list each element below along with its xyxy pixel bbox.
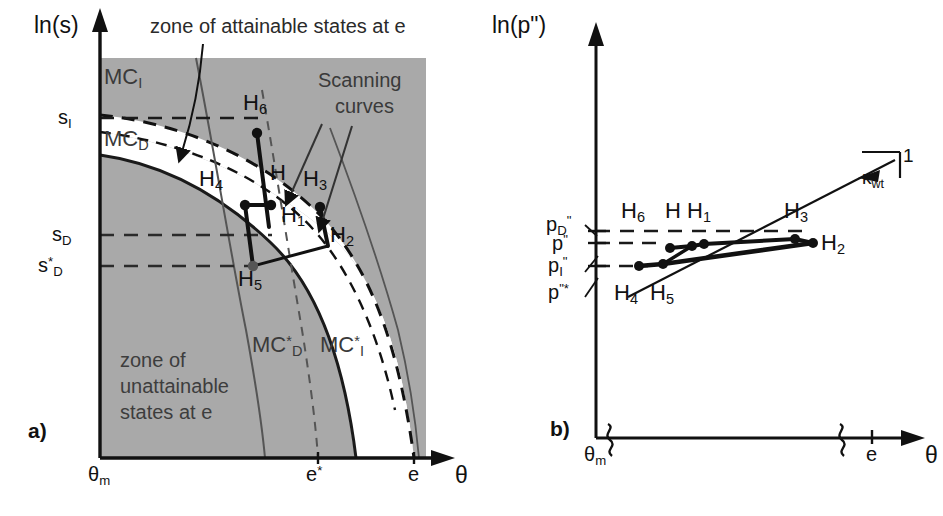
annotation-zone-unattainable-line2: unattainable xyxy=(120,376,229,396)
kappa-wt-line xyxy=(628,160,895,297)
panel-b-ytick-pi: pI" xyxy=(548,255,567,278)
annotation-zone-unattainable-line1: zone of xyxy=(120,350,186,370)
curve-label-mc-star-d: MC*D xyxy=(252,334,302,359)
point-h4-b xyxy=(634,261,644,271)
point-h5-b xyxy=(658,259,668,269)
point-h1-b xyxy=(699,239,709,249)
point-label-h5-a: H5 xyxy=(238,268,262,293)
point-h4-a xyxy=(240,200,250,210)
panel-a-ytick-s-star-d: s*D xyxy=(38,255,63,278)
point-label-h5-b: H5 xyxy=(650,282,674,307)
panel-a-xtick-e-star: e* xyxy=(306,464,322,484)
slope-kappa-wt-label: κwt xyxy=(862,168,884,190)
panel-a-xtick-e: e xyxy=(408,464,419,484)
point-label-h-a: H xyxy=(270,162,286,184)
point-h2-b xyxy=(808,238,818,248)
point-label-h6-b: H6 xyxy=(621,200,645,225)
state-points-b xyxy=(634,234,818,271)
point-label-h4-b: H4 xyxy=(614,282,638,307)
point-label-h4-a: H4 xyxy=(199,168,223,193)
annotation-scanning-curves-line2: curves xyxy=(335,96,394,116)
annotation-zone-attainable: zone of attainable states at e xyxy=(150,16,406,36)
panel-a-ytick-s-d: sD xyxy=(52,224,72,247)
curve-label-mc-d: MCD xyxy=(104,128,149,153)
point-label-h3-a: H3 xyxy=(303,168,327,193)
point-label-h2-b: H2 xyxy=(821,232,845,257)
point-label-h1-a: H1 xyxy=(281,204,305,229)
annotation-zone-unattainable-line3: states at e xyxy=(120,402,212,422)
panel-b-ytick-p: p" xyxy=(552,233,568,253)
curve-label-mc-star-i: MC*I xyxy=(320,334,364,359)
panel-a-id: a) xyxy=(28,420,47,441)
point-label-h2-a: H2 xyxy=(330,224,354,249)
point-h-b xyxy=(687,241,697,251)
point-label-h1-b: H1 xyxy=(687,200,711,225)
point-h3-b xyxy=(790,234,800,244)
panel-a-x-axis-arrow xyxy=(431,450,455,466)
slope-rise-label: 1 xyxy=(903,146,914,165)
panel-b-x-axis-arrow xyxy=(901,430,925,446)
point-h3-a xyxy=(315,202,325,212)
panel-b-y-axis-arrow xyxy=(588,22,604,46)
point-h6-a xyxy=(252,128,262,138)
panel-b-plot xyxy=(585,22,925,456)
panel-a-ytick-s-i: sI xyxy=(58,107,72,130)
point-h-a xyxy=(266,200,276,210)
panel-a-xtick-theta-m: θm xyxy=(88,464,110,487)
point-label-h3-b: H3 xyxy=(784,200,808,225)
point-label-h6-a: H6 xyxy=(243,92,267,117)
axis-break-right xyxy=(839,424,844,456)
annotation-scanning-curves-line1: Scanning xyxy=(318,70,401,90)
panel-b-xtick-theta-m: θm xyxy=(584,444,606,467)
panel-a-x-axis-label: θ xyxy=(455,464,468,487)
point-label-h-b: H xyxy=(665,200,681,222)
panel-b-xtick-e: e xyxy=(866,444,877,464)
panel-a-y-axis-arrow xyxy=(92,8,108,32)
point-h6-b xyxy=(665,243,675,253)
panel-b-x-axis-label: θ xyxy=(925,444,938,467)
panel-b-id: b) xyxy=(550,418,570,439)
curve-label-mc-i: MCI xyxy=(104,66,142,91)
panel-b-ytick-pstar: p"* xyxy=(548,282,569,302)
panel-b-y-axis-label: ln(p") xyxy=(492,14,546,37)
axis-break-left xyxy=(607,424,612,456)
figure-root: ln(s) θ a) θm e* e sI sD s*D MCI MCD MC*… xyxy=(0,0,943,516)
panel-a-y-axis-label: ln(s) xyxy=(34,14,79,37)
